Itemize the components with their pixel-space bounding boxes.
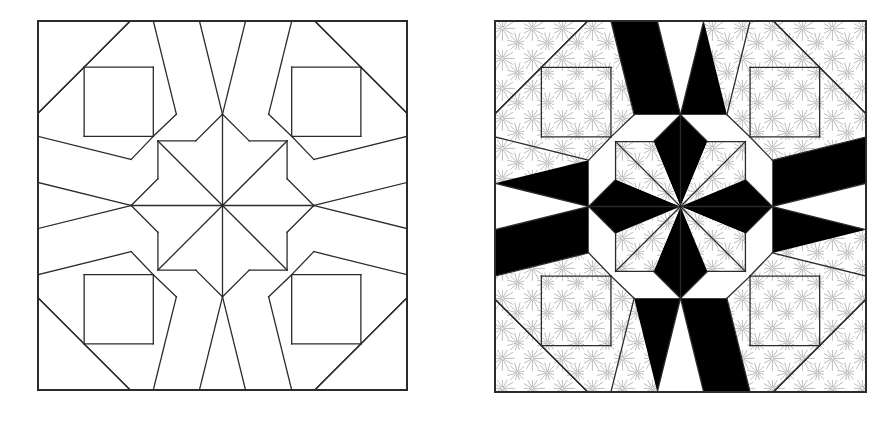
right-panel-shaded-block — [494, 20, 867, 393]
left-panel-line-drawing — [37, 20, 408, 391]
shaded-block-svg — [494, 20, 867, 393]
figure-root — [0, 0, 892, 437]
line-drawing-block-svg — [37, 20, 408, 391]
